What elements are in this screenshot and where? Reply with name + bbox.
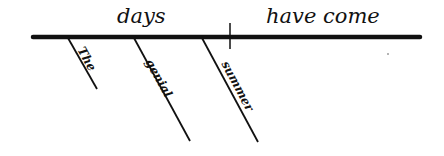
modifier-line-summer <box>202 38 258 142</box>
predicate-word: have come <box>266 6 380 27</box>
subject-word: days <box>117 6 166 27</box>
speck <box>387 53 389 55</box>
sentence-diagram: days have come The genial summer <box>0 0 444 156</box>
